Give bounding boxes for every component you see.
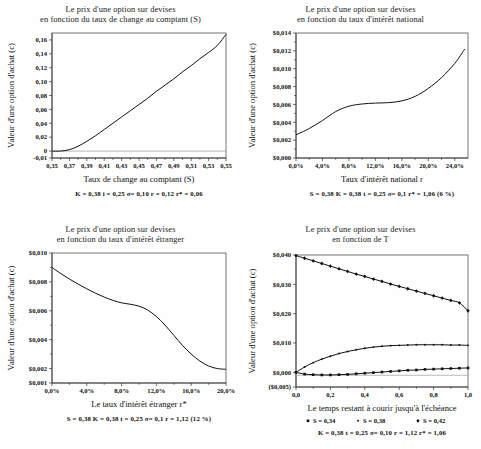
chart-panel-4: Le prix d'une option sur devises en fonc… — [240, 220, 481, 449]
panel-1-title: Le prix d'une option sur devises en fonc… — [0, 0, 241, 25]
svg-text:$0,000: $0,000 — [273, 369, 292, 376]
svg-text:S = 0,38 K = 0,38 t = 0,2: S = 0,38 K = 0,38 t = 0,25 σ= 0,1 r = 1,… — [67, 415, 211, 423]
panel-4-title: Le prix d'une option sur devises en fonc… — [240, 220, 481, 245]
svg-text:0,08: 0,08 — [35, 92, 47, 99]
svg-text:$0,008: $0,008 — [273, 83, 292, 90]
svg-text:12,0%: 12,0% — [366, 162, 384, 169]
svg-text:0,37: 0,37 — [64, 162, 76, 169]
svg-text:0,8: 0,8 — [429, 391, 438, 398]
svg-text:0,04: 0,04 — [35, 120, 47, 127]
svg-text:1,0: 1,0 — [464, 391, 473, 398]
svg2-ylabel: Valeur d'une option d'achat (c) — [247, 43, 257, 148]
svg4-xlabel: Le temps restant à courir jusqu'à l'éché… — [307, 403, 456, 413]
svg-text:$0,040: $0,040 — [273, 251, 292, 258]
svg-text:0,02: 0,02 — [35, 133, 47, 140]
panel-4-title-line1: Le prix d'une option sur devises — [305, 225, 415, 234]
svg-text:$0,000: $0,000 — [273, 154, 292, 161]
svg-text:$0,008: $0,008 — [29, 278, 48, 285]
svg-text:0,35: 0,35 — [46, 162, 58, 169]
svg-text:16,0%: 16,0% — [182, 387, 200, 394]
svg-text:S = 0,38: S = 0,38 — [363, 417, 386, 424]
svg-text:0,0%: 0,0% — [289, 162, 304, 169]
chart-panel-1: Le prix d'une option sur devises en fonc… — [0, 0, 241, 220]
svg-text:0,2: 0,2 — [326, 391, 335, 398]
panel-1-title-line1: Le prix d'une option sur devises — [65, 5, 175, 14]
svg-text:$0,004: $0,004 — [29, 336, 48, 343]
svg-text:8,0%: 8,0% — [342, 162, 357, 169]
svg-text:$0,006: $0,006 — [29, 307, 48, 314]
panel-3-plot: $0,010$0,008$0,006$0,004$0,002$0,0010,0%… — [0, 245, 241, 435]
svg-text:$0,004: $0,004 — [273, 119, 292, 126]
svg-text:0,39: 0,39 — [81, 162, 93, 169]
svg-text:0,43: 0,43 — [116, 162, 128, 169]
svg-text:$0,001: $0,001 — [29, 379, 47, 386]
svg-text:-0,01: -0,01 — [33, 154, 47, 161]
svg-text:0,14: 0,14 — [35, 50, 47, 57]
svg-text:0,41: 0,41 — [98, 162, 110, 169]
svg-text:0,4: 0,4 — [361, 391, 370, 398]
svg4-ylabel: Valeur d'une option d'achat (c) — [247, 268, 257, 373]
svg-text:$0,010: $0,010 — [273, 65, 292, 72]
svg-text:4,0%: 4,0% — [315, 162, 330, 169]
svg-text:0,53: 0,53 — [203, 162, 215, 169]
panel-3-title-line1: Le prix d'une option sur devises — [65, 225, 175, 234]
svg-text:$0,006: $0,006 — [273, 101, 292, 108]
svg-text:0,16: 0,16 — [35, 36, 47, 43]
panel-1-title-line2: en fonction du taux de change au comptan… — [0, 15, 241, 25]
svg-text:0,0%: 0,0% — [45, 387, 60, 394]
svg-text:$0,012: $0,012 — [273, 47, 292, 54]
svg-text:S = 0,42: S = 0,42 — [423, 417, 446, 424]
svg3-xlabel: Le taux d'intérêt étranger r* — [91, 399, 187, 409]
svg-text:0,55: 0,55 — [220, 162, 232, 169]
chart-panel-3: Le prix d'une option sur devises en fonc… — [0, 220, 241, 449]
svg-text:$0,014: $0,014 — [273, 29, 292, 36]
svg-text:$0,002: $0,002 — [273, 136, 292, 143]
svg-text:0,6: 0,6 — [395, 391, 404, 398]
svg-text:K = 0,38 i = 0,25 σ= 0,10: K = 0,38 i = 0,25 σ= 0,10 r = 0,12 r* = … — [75, 190, 203, 197]
svg-text:$0,010: $0,010 — [29, 249, 48, 256]
panel-2-plot: $0,014$0,012$0,010$0,008$0,006$0,004$0,0… — [240, 25, 481, 210]
svg-text:$0,002: $0,002 — [29, 365, 48, 372]
svg-text:0,10: 0,10 — [35, 78, 47, 85]
svg-text:0,06: 0,06 — [35, 106, 47, 113]
svg-text:$0,030: $0,030 — [273, 281, 292, 288]
panel-2-title: Le prix d'une option sur devises en fonc… — [240, 0, 481, 25]
svg-text:20,0%: 20,0% — [419, 162, 437, 169]
svg-text:0,51: 0,51 — [185, 162, 197, 169]
svg-text:0,45: 0,45 — [133, 162, 145, 169]
figure-page: Le prix d'une option sur devises en fonc… — [0, 0, 481, 449]
svg3-ylabel: Valeur d'une option d'achat (c) — [6, 265, 16, 370]
svg-text:0,12: 0,12 — [35, 64, 47, 71]
svg-text:0: 0 — [44, 147, 48, 154]
svg-text:($0,005): ($0,005) — [268, 383, 291, 391]
svg-text:$0,020: $0,020 — [273, 310, 292, 317]
svg-text:8,0%: 8,0% — [114, 387, 129, 394]
svg-text:0,47: 0,47 — [151, 162, 163, 169]
svg-text:$0,010: $0,010 — [273, 339, 292, 346]
svg1-xlabel: Taux de change au comptant (S) — [84, 174, 195, 184]
panel-3-title: Le prix d'une option sur devises en fonc… — [0, 220, 241, 245]
svg-text:0,49: 0,49 — [168, 162, 180, 169]
svg-text:24,0%: 24,0% — [446, 162, 464, 169]
svg-text:20,0%: 20,0% — [217, 387, 235, 394]
panel-4-plot: $0,040$0,030$0,020$0,010$0,000($0,005)0,… — [240, 245, 481, 445]
svg1-ylabel: Valeur d'une option d'achat (c) — [6, 43, 16, 148]
panel-1-plot: 0,160,140,120,100,080,060,040,020-0,010,… — [0, 25, 241, 210]
panel-2-title-line2: en fonction du taux d'intérêt national — [240, 15, 481, 25]
svg-text:S = 0,38 K = 0,38 t = 0,25: S = 0,38 K = 0,38 t = 0,25 σ= 0,1 r* = 1… — [310, 190, 454, 198]
panel-2-title-line1: Le prix d'une option sur devises — [305, 5, 415, 14]
svg-text:S = 0,34: S = 0,34 — [313, 417, 336, 424]
svg-text:0,0: 0,0 — [292, 391, 301, 398]
panel-3-title-line2: en fonction du taux d'intérêt étranger — [0, 235, 241, 245]
panel-4-title-line2: en fonction de T — [240, 235, 481, 245]
svg-text:16,0%: 16,0% — [393, 162, 411, 169]
chart-panel-2: Le prix d'une option sur devises en fonc… — [240, 0, 481, 220]
svg2-xlabel: Taux d'intérêt national r — [341, 174, 423, 184]
svg-text:4,0%: 4,0% — [79, 387, 94, 394]
svg-text:K = 0,38 t = 0,25 σ= 0,10: K = 0,38 t = 0,25 σ= 0,10 r = 1,12 r* = … — [318, 429, 447, 436]
svg-text:12,0%: 12,0% — [147, 387, 165, 394]
